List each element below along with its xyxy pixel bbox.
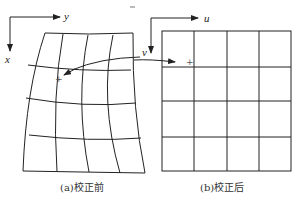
left-horizontal-axis-label: y (63, 10, 69, 22)
right-vertical-axis-label: v (142, 46, 147, 58)
target-point-marker-icon: + (186, 57, 194, 67)
mapping-arrow-icon (64, 57, 175, 75)
right-axes (151, 18, 198, 53)
source-point-marker-icon: + (55, 74, 63, 84)
right-horizontal-axis-label: u (204, 12, 210, 24)
left-axes (10, 17, 60, 51)
distorted-grid (23, 33, 145, 173)
correction-diagram: y x + u v + (a)校 (0, 0, 294, 202)
left-vertical-axis-label: x (4, 53, 10, 65)
right-caption: (b)校正后 (200, 181, 244, 193)
stray-mark (130, 6, 135, 8)
regular-grid (162, 31, 291, 171)
left-caption: (a)校正前 (60, 181, 104, 193)
